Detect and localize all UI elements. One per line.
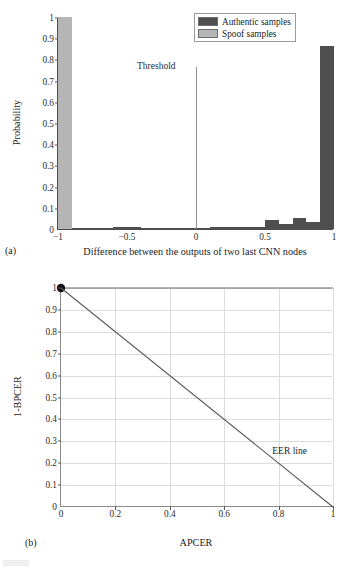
histogram-bar [320,46,334,229]
x-tick-label: 0 [59,506,64,519]
panel-b-roc: 00.10.20.30.40.50.60.70.80.91 00.20.40.6… [0,265,348,565]
y-tick-mark [55,18,59,19]
histogram-bar [293,218,307,229]
gridline-vertical [333,288,334,506]
histogram-bar [168,228,182,229]
x-tick-label: −1 [53,229,63,242]
scan-artifact [3,560,29,566]
x-tick-mark [170,506,171,510]
legend-swatch [198,29,218,38]
histogram-bar [265,220,279,229]
legend-swatch [198,17,218,26]
y-axis-title-a: Probability [11,93,22,153]
legend-item: Spoof samples [198,28,291,39]
histogram-bar [210,227,224,229]
x-tick-mark [224,506,225,510]
threshold-line [196,67,197,229]
x-tick-label: 1 [332,229,337,242]
y-tick-mark [55,39,59,40]
subfigure-label-a: (a) [5,245,16,256]
histogram-bar [155,228,169,229]
histogram-bar [306,222,320,229]
x-tick-mark [115,506,116,510]
y-tick-mark [55,60,59,61]
x-axis-title-b: APCER [60,537,332,548]
y-tick-mark [58,441,62,442]
legend-item: Authentic samples [198,16,291,27]
y-tick-mark [58,331,62,332]
histogram-bar [279,224,293,229]
y-tick-mark [58,419,62,420]
threshold-label: Threshold [137,61,176,71]
panel-a-histogram: 00.10.20.30.40.50.60.70.80.91 −1−0.500.5… [0,0,348,262]
y-tick-mark [58,353,62,354]
y-tick-mark [55,81,59,82]
histogram-bar [72,228,86,229]
series-line [61,288,333,507]
y-axis-title-b: 1-BPCER [12,366,23,426]
y-tick-mark [55,187,59,188]
y-tick-mark [58,288,62,289]
y-tick-mark [58,463,62,464]
subfigure-label-b: (b) [25,537,37,548]
roc-curves [61,288,333,507]
legend-label: Spoof samples [222,29,277,39]
x-tick-mark [333,506,334,510]
x-tick-label: −0.5 [119,229,136,242]
y-tick-mark [55,166,59,167]
y-tick-mark [55,102,59,103]
histogram-bar [99,228,113,229]
histogram-bar [237,227,251,229]
x-tick-mark [279,506,280,510]
histogram-bar [224,227,238,229]
y-tick-mark [58,375,62,376]
y-tick-mark [55,145,59,146]
legend-label: Authentic samples [222,17,291,27]
plot-area-b: 00.10.20.30.40.50.60.70.80.91 00.20.40.6… [60,288,332,507]
histogram-bar [86,228,100,229]
y-tick-mark [58,309,62,310]
histogram-bar [141,228,155,229]
x-tick-label: 0 [194,229,199,242]
y-tick-mark [58,485,62,486]
plot-area-a: 00.10.20.30.40.50.60.70.80.91 −1−0.500.5… [57,18,333,230]
legend: Authentic samplesSpoof samples [194,13,296,42]
histogram-bar [58,17,72,229]
eer-line-annotation: EER line [272,445,307,456]
x-tick-label: 0.5 [259,229,271,242]
y-tick-mark [55,208,59,209]
x-axis-title-a: Difference between the outputs of two la… [57,246,333,257]
y-tick-mark [55,124,59,125]
y-tick-mark [58,397,62,398]
figure-container: 00.10.20.30.40.50.60.70.80.91 −1−0.500.5… [0,0,348,568]
